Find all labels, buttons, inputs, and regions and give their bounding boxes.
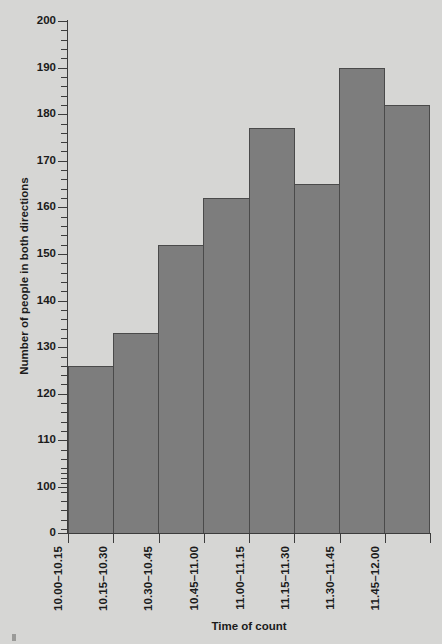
chart-page: Number of people in both directions 0100… xyxy=(0,0,442,644)
y-axis-major-tick xyxy=(58,487,67,488)
y-axis-major-tick xyxy=(58,394,67,395)
bar xyxy=(113,333,159,533)
y-axis-tick-label: 170 xyxy=(0,155,56,167)
y-axis-major-tick xyxy=(58,68,67,69)
x-axis-tick-label: 10.30–10.45 xyxy=(143,546,155,611)
y-axis-minor-tick xyxy=(61,198,67,199)
x-axis-tick xyxy=(113,534,114,543)
y-axis-tick-label: 150 xyxy=(0,248,56,260)
y-axis-minor-tick xyxy=(61,263,67,264)
y-axis-tick-label: 200 xyxy=(0,15,56,27)
y-axis-minor-tick xyxy=(61,319,67,320)
x-axis-tick xyxy=(68,534,69,543)
y-axis-minor-tick xyxy=(61,151,67,152)
y-axis-tick-label: 130 xyxy=(0,341,56,353)
bar xyxy=(384,105,430,533)
x-axis-tick xyxy=(204,534,205,543)
x-axis-label-cell: 11.45–12.00 xyxy=(385,546,430,618)
y-axis-tick-label: 110 xyxy=(0,434,56,446)
y-axis-minor-tick xyxy=(61,30,67,31)
y-axis-minor-tick xyxy=(61,179,67,180)
y-axis-minor-tick xyxy=(61,403,67,404)
bar xyxy=(158,245,204,533)
y-axis-minor-tick xyxy=(61,478,67,479)
x-axis-tick-label: 11.45–12.00 xyxy=(369,546,381,610)
y-axis-minor-tick xyxy=(61,412,67,413)
y-axis-tick-label: 0 xyxy=(0,527,56,539)
y-axis-minor-tick xyxy=(61,124,67,125)
y-axis-major-tick xyxy=(58,207,67,208)
y-axis-major-tick xyxy=(58,21,67,22)
y-axis-minor-tick xyxy=(61,189,67,190)
x-axis-tick-label: 10.15–10.30 xyxy=(97,546,109,611)
y-axis-minor-tick xyxy=(61,245,67,246)
y-axis-major-tick xyxy=(58,114,67,115)
y-axis-major-tick xyxy=(58,254,67,255)
y-axis-minor-tick xyxy=(61,133,67,134)
y-axis-tick-label: 100 xyxy=(0,481,56,493)
y-axis-minor-tick xyxy=(61,77,67,78)
x-axis-tick xyxy=(249,534,250,543)
y-axis-tick-label: 160 xyxy=(0,201,56,213)
y-axis-minor-tick xyxy=(61,459,67,460)
y-axis-minor-tick xyxy=(61,282,67,283)
x-axis-tick-label: 11.00–11.15 xyxy=(234,546,246,610)
y-axis-tick-label: 190 xyxy=(0,62,56,74)
y-axis-minor-tick xyxy=(61,329,67,330)
x-axis-tick-label: 11.30–11.45 xyxy=(324,546,336,610)
y-axis-minor-tick xyxy=(61,483,67,484)
y-axis-minor-tick xyxy=(61,357,67,358)
y-axis-tick-label: 180 xyxy=(0,108,56,120)
y-axis-minor-tick xyxy=(61,96,67,97)
y-axis-minor-tick xyxy=(61,520,67,521)
y-axis-tick-label: 140 xyxy=(0,295,56,307)
y-axis-minor-tick xyxy=(61,473,67,474)
y-axis-major-tick xyxy=(58,440,67,441)
y-axis-minor-tick xyxy=(61,226,67,227)
y-axis-minor-tick xyxy=(61,431,67,432)
y-axis-minor-tick xyxy=(61,468,67,469)
y-axis-minor-tick xyxy=(61,105,67,106)
y-axis-major-tick xyxy=(58,533,67,534)
y-axis-minor-tick xyxy=(61,366,67,367)
y-axis-major-tick xyxy=(58,161,67,162)
bar-series xyxy=(68,21,430,533)
y-axis-minor-tick xyxy=(61,492,67,493)
y-axis-minor-tick xyxy=(61,375,67,376)
y-axis-major-tick xyxy=(58,347,67,348)
y-axis-minor-tick xyxy=(61,40,67,41)
y-axis-minor-tick xyxy=(61,58,67,59)
y-axis-tick-label: 120 xyxy=(0,388,56,400)
y-axis-minor-tick xyxy=(61,422,67,423)
y-axis-minor-tick xyxy=(61,501,67,502)
bar xyxy=(294,184,340,533)
y-axis-major-tick xyxy=(58,301,67,302)
x-axis-tick xyxy=(340,534,341,543)
y-axis-minor-tick xyxy=(61,291,67,292)
x-axis-title: Time of count xyxy=(68,620,430,632)
plot-area xyxy=(68,21,430,533)
y-axis-minor-tick xyxy=(61,384,67,385)
y-axis-minor-tick xyxy=(61,49,67,50)
y-axis-minor-tick xyxy=(61,450,67,451)
y-axis-minor-tick xyxy=(61,310,67,311)
x-axis-tick-label: 10.45–11.00 xyxy=(188,546,200,610)
y-axis-minor-tick xyxy=(61,86,67,87)
bar xyxy=(203,198,249,533)
y-axis-minor-tick xyxy=(61,142,67,143)
x-axis-tick-label: 11.15–11.30 xyxy=(279,546,291,610)
bar xyxy=(68,366,114,533)
y-axis-minor-tick xyxy=(61,338,67,339)
bar xyxy=(249,128,295,533)
bar xyxy=(339,68,385,533)
y-axis-minor-tick xyxy=(61,170,67,171)
x-axis-tick xyxy=(430,534,431,543)
y-axis-minor-tick xyxy=(61,217,67,218)
x-axis-tick xyxy=(159,534,160,543)
page-corner-mark xyxy=(12,634,16,641)
x-axis-tick-label: 10.00–10.15 xyxy=(52,546,64,611)
x-axis-tick xyxy=(294,534,295,543)
y-axis-minor-tick xyxy=(61,510,67,511)
x-axis-tick xyxy=(385,534,386,543)
x-axis-tick-labels: 10.00–10.1510.15–10.3010.30–10.4510.45–1… xyxy=(68,546,430,618)
